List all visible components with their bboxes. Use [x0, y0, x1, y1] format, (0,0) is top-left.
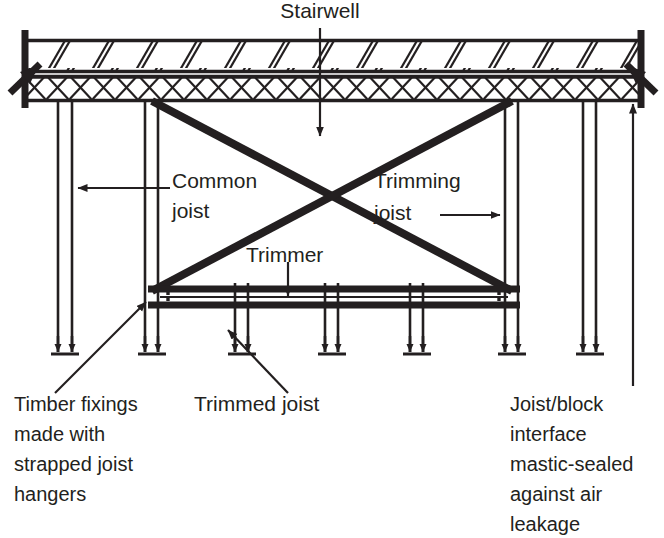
joist-block-label-line5: leakage: [510, 513, 580, 535]
joist-break-symbol: [318, 336, 346, 354]
common-joist-label-line2: joist: [171, 199, 210, 222]
common-joist-group-left-outer: [51, 101, 79, 354]
stairwell-trimming-diagram: Stairwell Common joist Trimming joist Tr…: [0, 0, 664, 538]
timber-fixings-label-line4: hangers: [14, 483, 86, 505]
joist-break-symbol: [576, 336, 604, 354]
screed-diagonal-hatch-band: [22, 41, 644, 72]
trimming-joist-label-line2: joist: [373, 201, 412, 224]
common-joist-group-left-inner: [138, 101, 166, 354]
trimmed-joist-leader: [228, 330, 288, 393]
joist-break-symbol: [498, 336, 526, 354]
trimmer-beam: [148, 289, 520, 305]
trimmed-joist-group-3: [403, 283, 431, 354]
common-joist-group-right-outer: [576, 101, 604, 354]
trimmed-joist-label: Trimmed joist: [194, 392, 319, 415]
joist-break-symbol: [403, 336, 431, 354]
trimmer-label: Trimmer: [246, 243, 323, 266]
common-joist-group-right-inner: [498, 101, 526, 354]
timber-fixings-label-line3: strapped joist: [14, 453, 133, 475]
timber-fixings-label-line1: Timber fixings: [14, 393, 138, 415]
diagram-canvas: Stairwell Common joist Trimming joist Tr…: [0, 0, 664, 538]
joist-break-symbol: [51, 336, 79, 354]
trimmed-joist-group-2: [318, 283, 346, 354]
timber-fixings-leader: [55, 302, 146, 393]
stairwell-cross-brace: [152, 101, 512, 291]
joist-block-label-line1: Joist/block: [510, 393, 604, 415]
common-joist-label-line1: Common: [172, 169, 257, 192]
joist-block-label-line2: interface: [510, 423, 587, 445]
joist-block-label-line3: mastic-sealed: [510, 453, 633, 475]
joist-break-symbol: [138, 336, 166, 354]
timber-fixings-label-line2: made with: [14, 423, 105, 445]
stairwell-label: Stairwell: [280, 0, 359, 22]
block-cross-hatch-band: [22, 78, 644, 101]
trimming-joist-label-line1: Trimming: [374, 169, 461, 192]
joist-block-label-line4: against air: [510, 483, 603, 505]
